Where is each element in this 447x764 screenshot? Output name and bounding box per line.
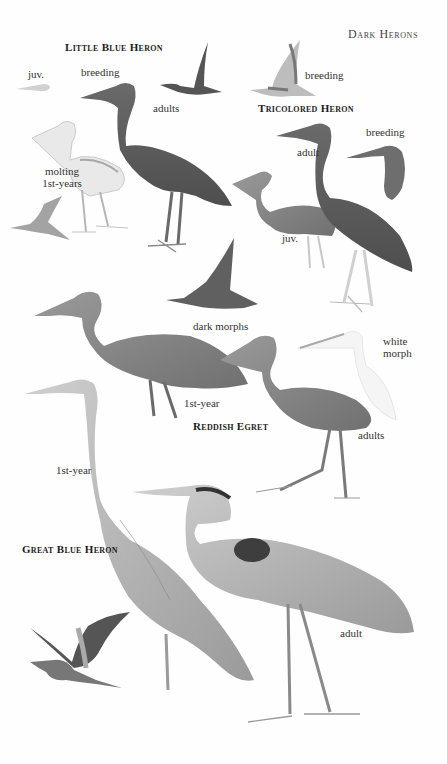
- label-trh-juv: juv.: [282, 232, 298, 244]
- label-gbh-adult: adult: [340, 627, 362, 639]
- label-re-dark-morphs: dark morphs: [193, 320, 248, 332]
- label-re-white-morph: white morph: [383, 335, 412, 359]
- page-header: Dark Herons: [348, 27, 418, 42]
- field-guide-page: Dark Herons Little Blue Heron Tricolored…: [0, 0, 447, 764]
- label-trh-breeding: breeding: [366, 126, 404, 138]
- species-name-little-blue-heron: Little Blue Heron: [65, 41, 163, 53]
- label-trh-adult: adult: [297, 146, 319, 158]
- label-lbh-breeding: breeding: [81, 66, 119, 78]
- little-blue-heron-juv-head: [16, 84, 50, 91]
- species-name-tricolored-heron: Tricolored Heron: [258, 102, 354, 114]
- label-line: molting: [40, 165, 84, 177]
- label-gbh-1st-year: 1st-year: [56, 464, 91, 476]
- label-lbh-adults: adults: [153, 102, 179, 114]
- heron-illustrations: [0, 0, 447, 764]
- species-name-reddish-egret: Reddish Egret: [193, 420, 268, 432]
- label-re-adults: adults: [358, 429, 384, 441]
- label-trh-flight-breeding: breeding: [305, 69, 343, 81]
- label-line: 1st-years: [40, 177, 84, 189]
- label-lbh-juv: juv.: [28, 68, 44, 80]
- label-lbh-molting-1st-years: molting 1st-years: [40, 165, 84, 189]
- little-blue-heron-small-juv: [10, 196, 70, 240]
- little-blue-heron-flying-adult: [160, 42, 222, 95]
- great-blue-heron-flying: [30, 612, 130, 688]
- label-re-1st-year: 1st-year: [184, 397, 219, 409]
- reddish-egret-dark-adult: [220, 336, 371, 498]
- reddish-egret-dark-morph-flying: [166, 238, 258, 309]
- tricolored-heron-breeding-head: [346, 146, 405, 200]
- species-name-great-blue-heron: Great Blue Heron: [22, 543, 118, 555]
- label-line: morph: [383, 347, 412, 359]
- label-line: white: [383, 335, 412, 347]
